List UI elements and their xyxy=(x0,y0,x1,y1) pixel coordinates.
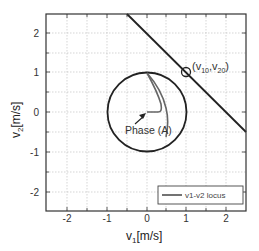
x-tick-label: 1 xyxy=(183,213,189,224)
phase-label: Phase (A) xyxy=(125,124,172,136)
y-axis-label: v2[m/s] xyxy=(9,102,25,138)
y-tick-label: 1 xyxy=(33,67,39,78)
plot-frame xyxy=(46,14,246,211)
x-axis-label: v1[m/s] xyxy=(126,229,162,245)
y-tick-label: 0 xyxy=(33,107,39,118)
x-tick-label: -2 xyxy=(63,213,72,224)
initial-point-label: (v10,v20) xyxy=(192,60,229,74)
arrow-head-icon xyxy=(139,113,146,119)
x-tick-label: 2 xyxy=(223,213,229,224)
legend-label: v1-v2 locus xyxy=(185,191,225,200)
x-tick-label: 0 xyxy=(144,213,150,224)
y-tick-label: -2 xyxy=(30,187,39,198)
x-tick-label: -1 xyxy=(103,213,112,224)
y-tick-label: 2 xyxy=(33,28,39,39)
grid xyxy=(46,14,246,211)
locus-branch-2 xyxy=(147,73,161,112)
y-tick-label: -1 xyxy=(30,147,39,158)
axis-ticks xyxy=(46,14,246,211)
phase-plot: -2 -1 0 1 2 2 1 0 -1 -2 v1[m/s] v2[m/s] … xyxy=(0,0,259,251)
